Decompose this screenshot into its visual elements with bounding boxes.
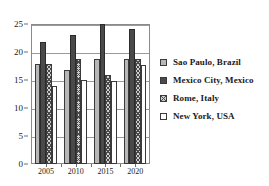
bar — [94, 59, 100, 164]
legend-swatch-sao-paulo-icon — [160, 59, 167, 66]
chart-legend: Sao Paulo, BrazilMexico City, MexicoRome… — [160, 53, 268, 125]
x-tick-mark-boundary — [120, 164, 121, 167]
bar — [46, 64, 52, 164]
legend-item-label: Sao Paulo, Brazil — [173, 57, 241, 67]
x-tick-mark — [105, 164, 106, 167]
legend-swatch-rome-icon — [160, 95, 167, 102]
x-tick-label: 2005 — [38, 167, 54, 176]
y-tick-label: 20 — [14, 48, 23, 57]
bar-chart: 0510152025 2005201020152020 Sao Paulo, B… — [0, 0, 269, 186]
y-tick-mark — [24, 80, 28, 81]
bar — [141, 65, 147, 164]
bar — [35, 64, 41, 164]
y-tick-mark — [24, 52, 28, 53]
bar — [52, 86, 58, 164]
x-tick-mark-boundary — [61, 164, 62, 167]
x-tick-mark — [135, 164, 136, 167]
bar — [111, 81, 117, 164]
y-tick-label: 10 — [14, 104, 23, 113]
bar — [64, 70, 70, 164]
x-tick-label: 2010 — [68, 167, 84, 176]
y-tick-mark — [24, 108, 28, 109]
y-tick-mark — [24, 136, 28, 137]
x-tick-mark — [76, 164, 77, 167]
legend-item-label: Mexico City, Mexico — [173, 75, 254, 85]
bar — [100, 24, 106, 164]
y-tick-label: 15 — [14, 76, 23, 85]
y-axis: 0510152025 — [0, 24, 28, 164]
x-tick-label: 2020 — [127, 167, 143, 176]
legend-item[interactable]: Rome, Italy — [160, 89, 268, 107]
x-tick-mark — [46, 164, 47, 167]
bar — [70, 35, 76, 164]
bar — [129, 29, 135, 164]
x-tick-label: 2015 — [97, 167, 113, 176]
y-tick-mark — [24, 164, 28, 165]
legend-item-label: New York, USA — [173, 111, 235, 121]
bar — [124, 59, 130, 164]
y-tick-label: 0 — [19, 160, 24, 169]
bar — [76, 59, 82, 164]
y-tick-mark — [24, 24, 28, 25]
y-tick-label: 5 — [19, 132, 24, 141]
x-tick-mark-boundary — [91, 164, 92, 167]
bar — [40, 42, 46, 164]
bar — [135, 59, 141, 164]
legend-item[interactable]: New York, USA — [160, 107, 268, 125]
y-tick-label: 25 — [14, 20, 23, 29]
legend-swatch-new-york-icon — [160, 113, 167, 120]
bar — [81, 80, 87, 164]
legend-item-label: Rome, Italy — [173, 93, 219, 103]
bar — [105, 75, 111, 164]
legend-swatch-mexico-city-icon — [160, 77, 167, 84]
legend-item[interactable]: Mexico City, Mexico — [160, 71, 268, 89]
x-axis: 2005201020152020 — [31, 167, 150, 183]
bars-layer — [31, 24, 150, 164]
legend-item[interactable]: Sao Paulo, Brazil — [160, 53, 268, 71]
